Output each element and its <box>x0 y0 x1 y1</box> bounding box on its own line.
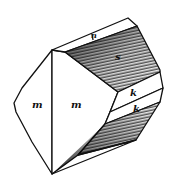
label-m-front: m <box>71 99 82 110</box>
label-k-upper: k <box>130 87 137 98</box>
label-top-strip: n <box>91 30 97 40</box>
label-k-lower: k <box>133 103 140 114</box>
face-m-left <box>14 50 52 174</box>
label-upper-shaded: s <box>115 51 121 62</box>
crystal-diagram: m m n s k k <box>0 0 172 189</box>
label-m-left: m <box>32 99 43 110</box>
